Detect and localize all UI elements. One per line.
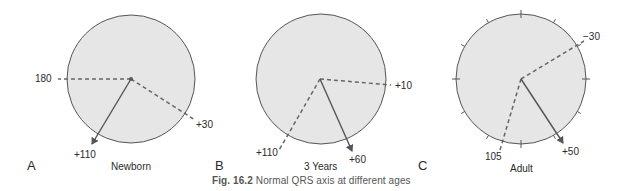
range-label: +110 (256, 147, 278, 158)
panel-adult: −30 105 +50 C Adult (418, 10, 600, 174)
panel-title: Adult (510, 163, 533, 174)
panel-title: Newborn (111, 161, 151, 172)
figure-caption: Fig. 16.2 Normal QRS axis at different a… (212, 175, 411, 186)
panel-letter: C (418, 158, 427, 173)
panel-3-years: +10 +110 +60 B 3 Years (215, 14, 412, 173)
caption-number: Fig. 16.2 (212, 175, 253, 186)
center-dot (129, 77, 133, 81)
range-label: −30 (583, 31, 600, 42)
panel-letter: B (215, 158, 224, 173)
caption-text: Normal QRS axis at different ages (256, 175, 411, 186)
mean-axis-label: +110 (74, 149, 96, 160)
panel-title: 3 Years (304, 161, 337, 172)
mean-axis-label: +50 (562, 146, 579, 157)
panel-letter: A (27, 158, 36, 173)
qrs-axis-figure: 180 +30 +110 A Newborn +10 +110 +60 B 3 … (0, 0, 629, 191)
range-label: 180 (35, 73, 52, 84)
panel-newborn: 180 +30 +110 A Newborn (27, 15, 213, 173)
range-label: 105 (485, 151, 502, 162)
range-label: +30 (196, 119, 213, 130)
mean-axis-label: +60 (349, 154, 366, 165)
range-label: +10 (395, 80, 412, 91)
